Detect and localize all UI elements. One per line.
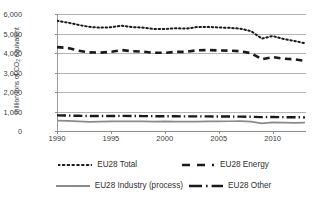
legend-row-1: EU28 Total EU28 Energy xyxy=(0,154,327,175)
x-tick-mark xyxy=(219,131,220,134)
legend-swatch-dashdot xyxy=(189,181,223,191)
x-tick-mark xyxy=(57,131,58,134)
series-line-eu28-industry-process xyxy=(57,121,305,124)
x-tick-label: 1990 xyxy=(37,134,77,143)
y-tick-label: 3,000 xyxy=(0,69,22,78)
legend-item-eu28-industry[interactable]: EU28 Industry (process) xyxy=(56,181,183,191)
x-tick-mark xyxy=(165,131,166,134)
series-layer xyxy=(57,14,305,131)
x-tick-label: 1995 xyxy=(91,134,131,143)
chart-figure: million tons of CO2 equivalent 01,0002,0… xyxy=(0,0,327,201)
legend-swatch-dashed xyxy=(181,160,215,170)
series-line-eu28-energy xyxy=(57,47,305,61)
y-tick-label: 4,000 xyxy=(0,49,22,58)
y-tick-label: 1,000 xyxy=(0,108,22,117)
legend-label-eu28-total: EU28 Total xyxy=(97,160,137,169)
legend-row-2: EU28 Industry (process) EU28 Other xyxy=(0,175,327,196)
y-tick-label: 6,000 xyxy=(0,10,22,19)
x-tick-label: 2010 xyxy=(253,134,293,143)
legend-label-eu28-energy: EU28 Energy xyxy=(220,160,269,169)
legend-item-eu28-other[interactable]: EU28 Other xyxy=(189,181,271,191)
x-tick-label: 2005 xyxy=(199,134,239,143)
chart-legend: EU28 Total EU28 Energy EU28 Industry (pr… xyxy=(0,154,327,196)
legend-swatch-solid xyxy=(56,181,90,191)
x-tick-label: 2000 xyxy=(145,134,185,143)
legend-item-eu28-total[interactable]: EU28 Total xyxy=(58,160,137,170)
y-tick-label: 0 xyxy=(0,127,22,136)
data-lines-svg xyxy=(57,14,305,131)
co2-subscript: 2 xyxy=(15,59,21,62)
legend-label-eu28-other: EU28 Other xyxy=(228,181,271,190)
legend-label-eu28-industry: EU28 Industry (process) xyxy=(95,181,183,190)
x-tick-mark xyxy=(273,131,274,134)
series-line-eu28-other xyxy=(57,115,305,117)
series-line-eu28-total xyxy=(57,21,305,43)
x-tick-mark xyxy=(111,131,112,134)
x-axis-line xyxy=(58,131,306,132)
legend-swatch-dotted xyxy=(58,160,92,170)
legend-item-eu28-energy[interactable]: EU28 Energy xyxy=(181,160,269,170)
y-tick-label: 5,000 xyxy=(0,30,22,39)
y-tick-label: 2,000 xyxy=(0,88,22,97)
